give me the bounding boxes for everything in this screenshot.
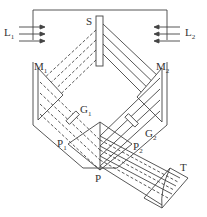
arrows-left xyxy=(19,25,45,43)
mirror-M2 xyxy=(137,68,162,122)
label-G1: G1 xyxy=(80,104,91,118)
slit-S xyxy=(96,16,103,66)
label-T: T xyxy=(180,162,187,173)
label-P: P xyxy=(95,173,101,184)
label-S: S xyxy=(86,16,92,27)
label-P1: P1 xyxy=(57,138,67,152)
label-M2: M2 xyxy=(156,61,169,75)
label-P2: P2 xyxy=(133,141,143,155)
optical-diagram xyxy=(0,0,207,217)
label-L2: L2 xyxy=(185,27,195,41)
mirror-M1 xyxy=(38,68,63,120)
label-M1: M1 xyxy=(34,61,47,75)
label-G2: G2 xyxy=(145,128,156,142)
label-L1: L1 xyxy=(4,27,14,41)
